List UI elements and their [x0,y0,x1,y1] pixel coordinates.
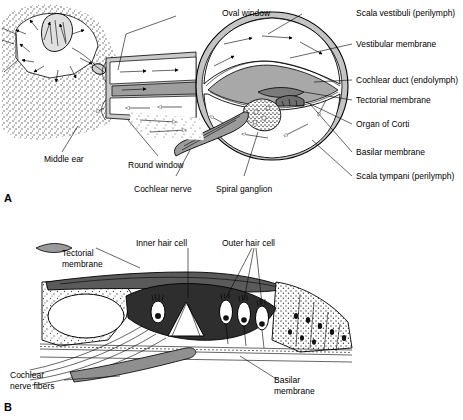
label-basilar-membrane-b-line1: Basilar [274,375,300,385]
label-organ-of-corti: Organ of Corti [356,119,409,129]
label-tectorial-membrane-b-line2: membrane [62,259,103,269]
label-inner-hair-cell: Inner hair cell [136,238,187,248]
label-cochlear-duct: Cochlear duct (endolymph) [356,75,458,85]
label-spiral-ganglion: Spiral ganglion [216,184,272,194]
label-round-window: Round window [128,160,184,170]
inner-sulcus-cavity [48,294,124,338]
label-vestibular-membrane: Vestibular membrane [356,39,436,49]
label-basilar-membrane: Basilar membrane [356,147,425,157]
inner-hair-cell-body [151,301,165,323]
label-scala-tympani: Scala tympani (perilymph) [356,171,454,181]
figure-cochlea-anatomy: Oval window Middle ear Round window Coch… [0,0,463,420]
label-oval-window: Oval window [222,8,270,18]
ganglion-cell [266,106,270,110]
label-cochlear-nerve-fibers-line1: Cochlear [10,370,44,380]
label-scala-vestibuli: Scala vestibuli (perilymph) [356,8,455,18]
panel-letter-b: B [4,401,12,413]
label-middle-ear: Middle ear [44,154,84,164]
ganglion-cell [253,120,257,124]
label-outer-hair-cell: Outer hair cell [222,238,275,248]
panel-letter-a: A [4,192,12,204]
ganglion-cell [254,110,258,114]
label-cochlear-nerve-fibers-line2: nerve fibers [10,381,54,391]
ganglion-cell [262,116,266,120]
label-cochlear-nerve: Cochlear nerve [134,184,192,194]
inner-hair-cell-nucleus [155,313,161,319]
label-tectorial-membrane-b-line1: Tectorial [62,248,94,258]
label-tectorial-membrane: Tectorial membrane [356,95,431,105]
label-basilar-membrane-b-line2: membrane [274,386,315,396]
leader-basilar-membrane-b [240,356,278,380]
scala-vestibuli-channel [110,57,196,84]
